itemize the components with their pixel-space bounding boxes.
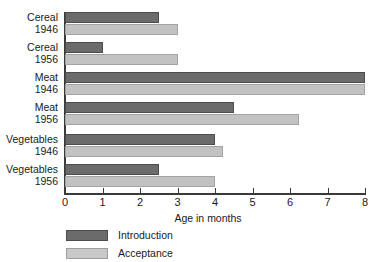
- x-tick-label: 7: [324, 196, 330, 208]
- category-label-line: Meat: [35, 102, 58, 114]
- x-tick-label: 3: [174, 196, 180, 208]
- bar-introduction: [65, 42, 103, 53]
- bar-group: [65, 134, 365, 157]
- bar-group: [65, 102, 365, 125]
- category-label-line: 1956: [35, 114, 58, 126]
- category-label: Meat1946: [35, 72, 58, 95]
- bar-group: [65, 164, 365, 187]
- bar-introduction: [65, 134, 215, 145]
- x-tick-label: 1: [99, 196, 105, 208]
- category-label: Cereal1956: [27, 42, 58, 65]
- bar-acceptance: [65, 54, 178, 65]
- category-label-line: Meat: [35, 72, 58, 84]
- bar-introduction: [65, 102, 234, 113]
- category-label-line: 1946: [27, 24, 58, 36]
- category-label-line: Cereal: [27, 12, 58, 24]
- bar-introduction: [65, 12, 159, 23]
- bar-group: [65, 12, 365, 35]
- category-label-line: Vegetables: [6, 164, 58, 176]
- bar-introduction: [65, 164, 159, 175]
- x-tick-label: 0: [62, 196, 68, 208]
- legend-swatch-acceptance: [66, 248, 108, 259]
- x-tick: [328, 188, 329, 194]
- legend-swatch-introduction: [66, 230, 108, 241]
- x-axis-title: Age in months: [0, 212, 376, 224]
- bar-group: [65, 42, 365, 65]
- category-label-line: 1956: [27, 54, 58, 66]
- x-tick: [178, 188, 179, 194]
- x-tick: [215, 188, 216, 194]
- category-label: Cereal1946: [27, 12, 58, 35]
- x-tick: [140, 188, 141, 194]
- x-tick-label: 4: [212, 196, 218, 208]
- x-tick: [253, 188, 254, 194]
- legend-label-acceptance: Acceptance: [118, 247, 173, 259]
- bar-group: [65, 72, 365, 95]
- x-tick: [103, 188, 104, 194]
- bar-acceptance: [65, 146, 223, 157]
- category-label-line: 1946: [35, 84, 58, 96]
- category-label: Vegetables1956: [6, 164, 58, 187]
- bar-acceptance: [65, 24, 178, 35]
- category-label-line: Vegetables: [6, 134, 58, 146]
- bar-chart: Cereal1946Cereal1956Meat1946Meat1956Vege…: [0, 0, 376, 262]
- bar-acceptance: [65, 176, 215, 187]
- x-tick: [290, 188, 291, 194]
- bar-acceptance: [65, 114, 299, 125]
- legend-item-introduction: Introduction: [66, 228, 173, 242]
- x-tick-label: 2: [137, 196, 143, 208]
- bar-introduction: [65, 72, 365, 83]
- x-tick-label: 6: [287, 196, 293, 208]
- x-tick: [65, 188, 66, 194]
- legend-label-introduction: Introduction: [118, 229, 173, 241]
- bar-acceptance: [65, 84, 365, 95]
- legend: Introduction Acceptance: [66, 228, 173, 262]
- legend-item-acceptance: Acceptance: [66, 246, 173, 260]
- plot-area: [65, 12, 365, 192]
- category-label-line: Cereal: [27, 42, 58, 54]
- category-label-line: 1946: [6, 146, 58, 158]
- x-tick: [365, 188, 366, 194]
- x-tick-label: 5: [249, 196, 255, 208]
- category-label: Vegetables1946: [6, 134, 58, 157]
- category-label-line: 1956: [6, 176, 58, 188]
- x-tick-label: 8: [362, 196, 368, 208]
- category-label: Meat1956: [35, 102, 58, 125]
